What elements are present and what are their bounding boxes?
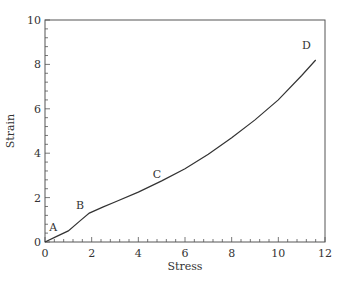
annotation-d: D [302, 39, 311, 52]
point-annotations: ABCD [48, 39, 311, 234]
x-tick-label: 6 [182, 247, 189, 260]
x-tick-label: 0 [42, 247, 49, 260]
x-tick-label: 8 [228, 247, 235, 260]
x-tick-label: 2 [88, 247, 95, 260]
tick-labels: 0246810120246810 [27, 14, 332, 260]
x-axis-label: Stress [167, 260, 202, 273]
y-axis-label: Strain [4, 114, 17, 148]
data-line [45, 60, 316, 242]
y-tick-label: 6 [34, 103, 41, 116]
plot-frame [45, 20, 325, 242]
y-tick-label: 2 [34, 192, 41, 205]
annotation-b: B [76, 199, 84, 212]
annotation-c: C [153, 168, 161, 181]
y-tick-label: 0 [34, 236, 41, 249]
axis-ticks [45, 20, 325, 242]
x-tick-label: 4 [135, 247, 142, 260]
x-tick-label: 12 [318, 247, 332, 260]
y-tick-label: 10 [27, 14, 41, 27]
y-tick-label: 8 [34, 58, 41, 71]
annotation-a: A [48, 221, 58, 234]
x-tick-label: 10 [271, 247, 285, 260]
y-tick-label: 4 [34, 147, 41, 160]
stress-strain-chart: 0246810120246810 ABCD Stress Strain [0, 0, 347, 282]
